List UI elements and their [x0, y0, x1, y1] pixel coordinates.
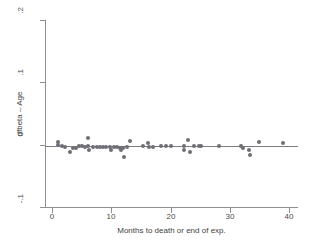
data-point: [188, 150, 192, 154]
data-point: [186, 138, 190, 142]
data-point: [122, 155, 126, 159]
x-tick-label: 20: [157, 212, 185, 221]
x-tick-label: 0: [38, 212, 66, 221]
data-point: [257, 140, 261, 144]
data-point: [63, 145, 67, 149]
data-point: [248, 153, 252, 157]
x-tick-label: 10: [97, 212, 125, 221]
data-point: [86, 136, 90, 140]
data-point: [128, 139, 132, 143]
data-point: [199, 144, 203, 148]
data-point: [247, 148, 251, 152]
data-point: [164, 144, 168, 148]
x-axis-title: Months to death or end of exp.: [45, 226, 298, 236]
data-point: [68, 150, 72, 154]
data-point: [192, 144, 196, 148]
plot-area: [45, 20, 298, 207]
y-axis-title: dfbeta – Age: [14, 20, 26, 208]
data-point: [151, 145, 155, 149]
data-point: [182, 148, 186, 152]
data-point: [125, 145, 129, 149]
y-tick-mark: [40, 207, 45, 208]
x-tick-label: 40: [275, 212, 303, 221]
data-point: [217, 144, 221, 148]
scatter-plot-figure: -.10.1.2 010203040 Months to death or en…: [0, 0, 318, 246]
data-point: [281, 141, 285, 145]
data-point: [241, 146, 245, 150]
x-tick-label: 30: [216, 212, 244, 221]
data-point: [141, 144, 145, 148]
data-point: [159, 144, 163, 148]
data-point: [169, 144, 173, 148]
